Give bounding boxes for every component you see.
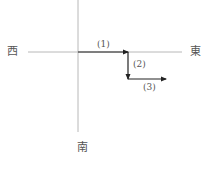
south-label: 南 [77, 142, 88, 153]
segment-2-label: (2) [133, 60, 146, 69]
east-label: 東 [190, 46, 201, 57]
west-label: 西 [7, 46, 18, 57]
direction-diagram [0, 0, 206, 177]
segment-3-label: (3) [143, 83, 156, 92]
segment-1-label: (1) [97, 40, 110, 49]
